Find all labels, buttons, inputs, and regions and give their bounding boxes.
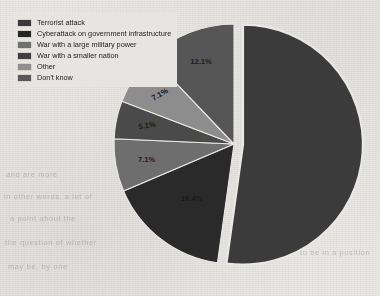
legend-item-label: Don't know <box>37 73 73 82</box>
legend-item[interactable]: War with a large military power <box>18 39 171 50</box>
legend-item[interactable]: War with a smaller nation <box>18 50 171 61</box>
legend-item[interactable]: Terrorist attack <box>18 17 171 28</box>
legend-swatch-icon <box>18 31 31 37</box>
legend-item[interactable]: Don't know <box>18 72 171 83</box>
legend-swatch-icon <box>18 42 31 48</box>
bleed-text: and are more <box>6 170 58 179</box>
pie-slice-label: 16.4% <box>181 194 203 203</box>
pie-slice[interactable] <box>226 25 363 265</box>
pie-slice-label: 7.1% <box>138 155 156 164</box>
legend-item-label: Cyberattack on government infrastructure <box>37 29 171 38</box>
legend-swatch-icon <box>18 64 31 70</box>
chart-legend: Terrorist attack Cyberattack on governme… <box>14 13 177 87</box>
bleed-text: in other words, a lot of <box>4 192 92 201</box>
legend-item[interactable]: Cyberattack on government infrastructure <box>18 28 171 39</box>
legend-item-label: War with a large military power <box>37 40 136 49</box>
bleed-text: may be, by one <box>8 262 68 271</box>
pie-slice-label: 12.1% <box>190 57 212 66</box>
chart-page: and are more in other words, a lot of a … <box>0 0 380 296</box>
bleed-text: a point about the <box>10 214 76 223</box>
legend-item[interactable]: Other <box>18 61 171 72</box>
legend-swatch-icon <box>18 53 31 59</box>
legend-swatch-icon <box>18 20 31 26</box>
legend-swatch-icon <box>18 75 31 81</box>
legend-item-label: War with a smaller nation <box>37 51 119 60</box>
legend-item-label: Other <box>37 62 55 71</box>
legend-item-label: Terrorist attack <box>37 18 85 27</box>
bleed-text: the question of whether <box>5 238 97 247</box>
